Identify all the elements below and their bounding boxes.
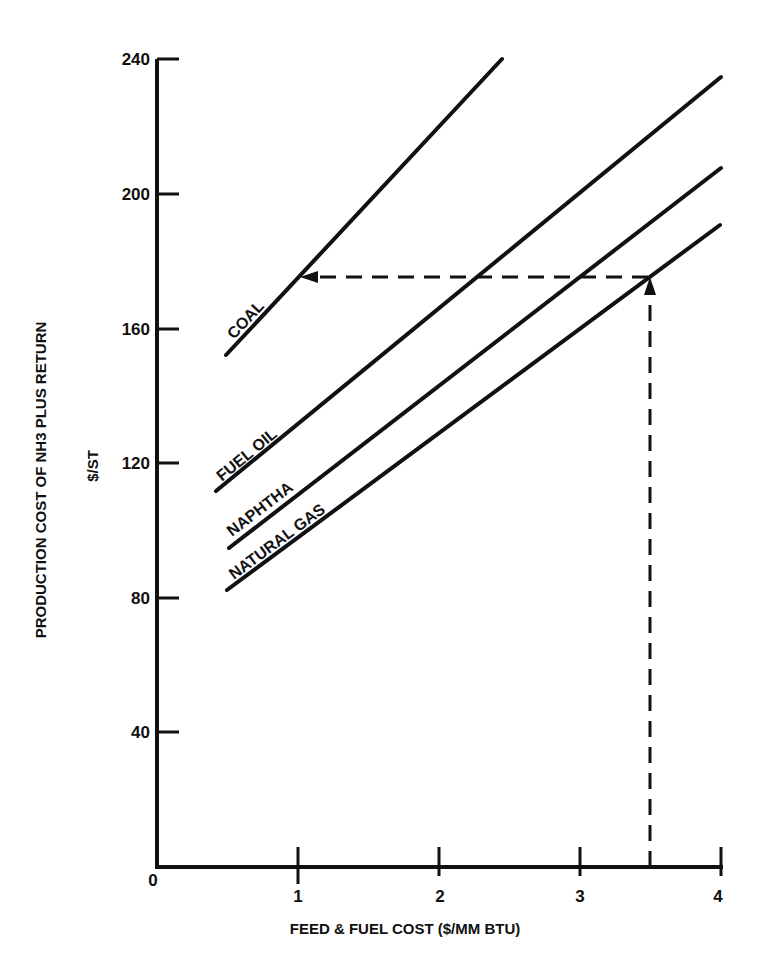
series-line-coal (226, 59, 502, 355)
chart: 240 200 160 120 80 40 0 1 2 3 4 FEED & F… (0, 0, 765, 972)
y-axis-unit: $/ST (84, 450, 101, 482)
y-ticks (157, 59, 179, 732)
x-tick-label-3: 3 (575, 887, 584, 906)
x-tick-label-2: 2 (435, 887, 444, 906)
y-axis-title: PRODUCTION COST OF NH3 PLUS RETURN (32, 322, 49, 639)
series-line-naphtha (229, 168, 721, 548)
y-tick-label-160: 160 (122, 320, 150, 339)
y-tick-label-120: 120 (122, 454, 150, 473)
x-axis-title: FEED & FUEL COST ($/MM BTU) (290, 920, 521, 937)
y-tick-label-240: 240 (122, 50, 150, 69)
y-tick-label-40: 40 (131, 723, 150, 742)
x-tick-label-1: 1 (293, 887, 302, 906)
origin-label: 0 (148, 871, 157, 890)
series-label-fuel-oil: FUEL OIL (213, 425, 280, 484)
y-tick-label-80: 80 (131, 589, 150, 608)
x-tick-label-4: 4 (713, 887, 723, 906)
annotation-arrows (300, 271, 656, 867)
y-tick-label-200: 200 (122, 185, 150, 204)
